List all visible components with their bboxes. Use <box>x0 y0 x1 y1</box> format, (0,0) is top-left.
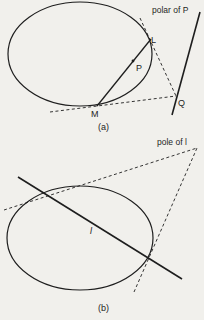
chord-lm <box>97 39 151 106</box>
conic-b <box>7 186 153 290</box>
panel-a: polar of P L P M Q (a) <box>8 2 200 132</box>
conic-a <box>8 2 152 106</box>
point-p-dot <box>132 60 135 63</box>
line-l-label: l <box>90 226 93 236</box>
pole-of-l-label: pole of l <box>157 137 187 147</box>
tangent-upper <box>4 148 197 210</box>
point-l-label: L <box>151 35 156 45</box>
point-p-label: P <box>136 63 142 73</box>
tangent-lower <box>134 148 197 292</box>
pole-polar-diagram: polar of P L P M Q (a) pole of l l (b) <box>0 0 204 320</box>
point-q-label: Q <box>178 98 185 108</box>
line-l <box>18 177 182 279</box>
caption-b: (b) <box>98 303 109 313</box>
tangent-at-l <box>140 18 176 96</box>
panel-b: pole of l l (b) <box>4 137 197 313</box>
tangent-at-m <box>50 96 176 112</box>
polar-of-p-line <box>172 12 200 115</box>
caption-a: (a) <box>98 122 109 132</box>
diagram-canvas: polar of P L P M Q (a) pole of l l (b) <box>0 0 204 320</box>
point-m-label: M <box>91 109 99 119</box>
polar-of-p-label: polar of P <box>152 5 189 15</box>
